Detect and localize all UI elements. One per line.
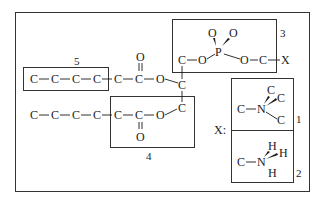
svg-text:C: C <box>178 78 186 92</box>
svg-text:C: C <box>51 72 59 86</box>
svg-text:H: H <box>268 139 277 153</box>
svg-text:C: C <box>72 72 80 86</box>
svg-text:C: C <box>135 72 143 86</box>
svg-text:C: C <box>259 53 267 67</box>
svg-text:C: C <box>277 113 285 127</box>
svg-text:H: H <box>268 166 277 180</box>
phosphate-group: O P O O O C X <box>187 26 290 67</box>
svg-text:H: H <box>279 146 288 160</box>
svg-text:O: O <box>229 26 238 40</box>
glycerol-backbone: C C C <box>178 53 186 115</box>
svg-text:C: C <box>178 101 186 115</box>
svg-text:C: C <box>30 108 38 122</box>
svg-text:O: O <box>136 50 145 64</box>
svg-text:C: C <box>135 108 143 122</box>
svg-text:C: C <box>237 155 245 169</box>
svg-text:C: C <box>93 108 101 122</box>
svg-text:C: C <box>178 53 186 67</box>
svg-text:N: N <box>257 102 266 116</box>
svg-text:O: O <box>136 130 145 144</box>
svg-text:C: C <box>30 72 38 86</box>
svg-text:C: C <box>114 72 122 86</box>
svg-text:C: C <box>237 102 245 116</box>
svg-text:P: P <box>215 45 222 59</box>
svg-text:C: C <box>93 72 101 86</box>
svg-text:O: O <box>208 26 217 40</box>
svg-text:O: O <box>240 53 249 67</box>
group-2-ethanolamine: C N H H H <box>237 139 288 180</box>
box-5-label: 5 <box>74 55 80 67</box>
svg-text:C: C <box>277 91 285 105</box>
box-3-label: 3 <box>280 27 286 39</box>
x-key-label: X: <box>214 123 226 137</box>
svg-text:C: C <box>72 108 80 122</box>
phospholipid-diagram: 5 3 4 1 2 X: C C C C C C O O C C C <box>0 0 327 200</box>
bottom-acyl-chain: C C C C C C O O <box>30 108 177 144</box>
svg-text:C: C <box>51 108 59 122</box>
svg-text:X: X <box>281 53 290 67</box>
svg-text:O: O <box>156 72 165 86</box>
group-1-choline: C N C C C <box>237 83 285 127</box>
box-1-label: 1 <box>296 113 302 125</box>
box-4-label: 4 <box>146 150 152 162</box>
svg-text:O: O <box>156 108 165 122</box>
svg-text:C: C <box>267 83 275 97</box>
svg-text:N: N <box>257 155 266 169</box>
svg-text:C: C <box>114 108 122 122</box>
svg-text:O: O <box>198 53 207 67</box>
box-2-label: 2 <box>296 167 302 179</box>
